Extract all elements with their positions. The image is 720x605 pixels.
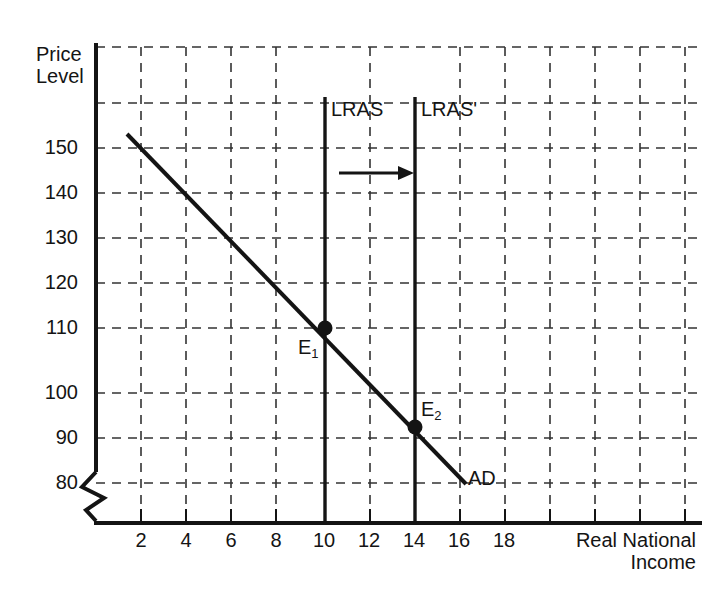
equilibrium-point-e1 [318,321,333,336]
y-axis-title: Price [36,44,82,65]
shift-arrow-icon [339,166,414,180]
x-tick-label-6: 6 [211,530,251,551]
y-tick-label-120: 120 [20,272,78,293]
x-axis-ticks [141,509,685,521]
equilibrium-label-e1-subscript: 1 [311,346,318,361]
axis-break-zigzag [82,472,104,521]
x-tick-label-16: 16 [439,530,479,551]
y-tick-label-150: 150 [20,137,78,158]
x-axis-title: Real National [500,530,696,551]
economics-chart: Price Level 150 140 130 120 110 100 90 8… [0,0,720,605]
x-axis-title-line2: Income [630,551,696,573]
y-tick-label-90: 90 [20,427,78,448]
x-tick-label-12: 12 [349,530,389,551]
equilibrium-point-e2 [408,420,423,435]
y-tick-label-140: 140 [20,182,78,203]
x-tick-label-14: 14 [394,530,434,551]
x-tick-label-2: 2 [121,530,161,551]
lras-label: LRAS [331,99,383,120]
y-tick-label-110: 110 [20,317,78,338]
grid-vertical-lines [141,47,685,523]
y-tick-label-100: 100 [20,382,78,403]
x-axis-title-line2-wrap: Income [500,552,696,573]
y-axis-title-line2-wrap: Level [36,66,84,87]
ad-label: AD [468,468,496,489]
x-tick-label-4: 4 [166,530,206,551]
y-axis-title-line1: Price [36,43,82,65]
y-axis-title-line2: Level [36,65,84,87]
y-tick-label-80: 80 [20,472,78,493]
equilibrium-label-e2: E2 [421,399,442,420]
equilibrium-label-e2-base: E [421,398,434,420]
lras-prime-label: LRAS' [421,99,477,120]
equilibrium-label-e1-base: E [298,336,311,358]
x-tick-label-10: 10 [304,530,344,551]
equilibrium-label-e1: E1 [298,337,319,358]
y-tick-label-130: 130 [20,227,78,248]
chart-canvas [0,0,720,605]
x-tick-label-8: 8 [256,530,296,551]
equilibrium-label-e2-subscript: 2 [434,408,441,423]
x-axis-title-line1: Real National [576,529,696,551]
